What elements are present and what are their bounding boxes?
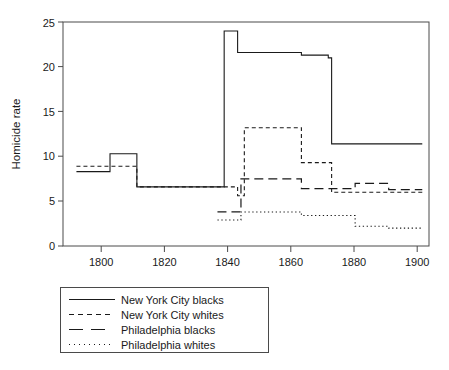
legend-item-phila-blacks[interactable]: Philadelphia blacks bbox=[61, 323, 268, 337]
x-tick-1820: 1820 bbox=[152, 256, 176, 268]
legend-line-dotted-icon bbox=[69, 340, 115, 350]
legend-label-0: New York City blacks bbox=[121, 294, 224, 306]
series-layer bbox=[76, 31, 422, 228]
legend-label-1: New York City whites bbox=[121, 309, 224, 321]
y-tick-25: 25 bbox=[43, 17, 55, 29]
series-line-philadelphia-whites bbox=[217, 212, 422, 228]
legend-item-nyc-whites[interactable]: New York City whites bbox=[61, 308, 268, 322]
y-tick-0: 0 bbox=[49, 240, 55, 252]
series-line-new-york-city-whites bbox=[76, 128, 422, 196]
y-tick-labels: 0 5 10 15 20 25 bbox=[43, 17, 55, 252]
x-tick-1900: 1900 bbox=[405, 256, 429, 268]
legend-item-phila-whites[interactable]: Philadelphia whites bbox=[61, 338, 268, 352]
y-tick-marks bbox=[58, 22, 63, 246]
legend-item-nyc-blacks[interactable]: New York City blacks bbox=[61, 293, 268, 307]
x-tick-1860: 1860 bbox=[279, 256, 303, 268]
x-tick-1840: 1840 bbox=[215, 256, 239, 268]
chart-svg: Homicide rate 0 5 10 15 20 25 bbox=[0, 0, 449, 275]
y-tick-5: 5 bbox=[49, 195, 55, 207]
series-line-philadelphia-blacks bbox=[217, 179, 422, 212]
y-axis-title: Homicide rate bbox=[10, 99, 22, 170]
legend-line-solid-icon bbox=[69, 295, 115, 305]
y-tick-10: 10 bbox=[43, 150, 55, 162]
legend: New York City blacks New York City white… bbox=[60, 287, 269, 353]
y-tick-15: 15 bbox=[43, 106, 55, 118]
y-tick-20: 20 bbox=[43, 61, 55, 73]
x-tick-marks bbox=[101, 246, 417, 252]
x-tick-1800: 1800 bbox=[89, 256, 113, 268]
x-tick-labels: 1800 1820 1840 1860 1880 1900 bbox=[89, 256, 429, 268]
legend-line-dashed-icon bbox=[69, 310, 115, 320]
plot-frame bbox=[63, 22, 429, 246]
plot-area: Homicide rate 0 5 10 15 20 25 bbox=[0, 0, 449, 275]
legend-label-2: Philadelphia blacks bbox=[121, 324, 215, 336]
chart-figure: Homicide rate 0 5 10 15 20 25 bbox=[0, 0, 449, 370]
series-line-new-york-city-blacks bbox=[76, 31, 422, 187]
legend-line-long-dashed-icon bbox=[69, 325, 115, 335]
legend-label-3: Philadelphia whites bbox=[121, 339, 215, 351]
x-tick-1880: 1880 bbox=[342, 256, 366, 268]
